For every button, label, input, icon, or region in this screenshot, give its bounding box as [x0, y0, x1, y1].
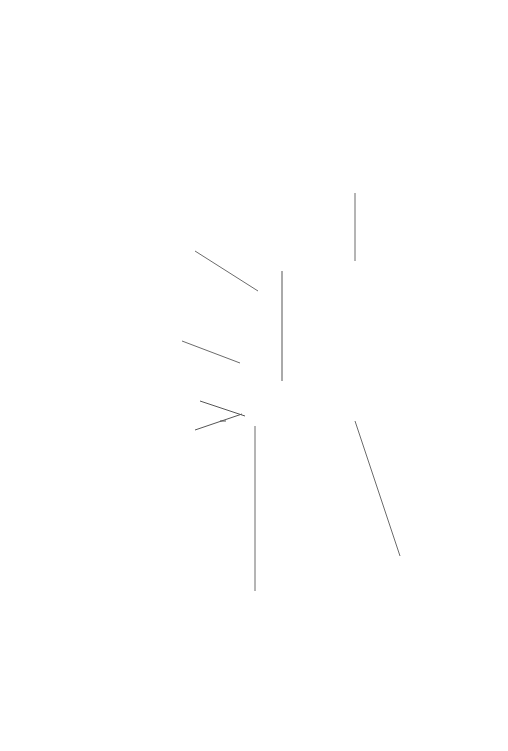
- diagram-graphics: [0, 0, 508, 751]
- spokes: [182, 193, 400, 591]
- pedagogy-diagram: [0, 0, 508, 751]
